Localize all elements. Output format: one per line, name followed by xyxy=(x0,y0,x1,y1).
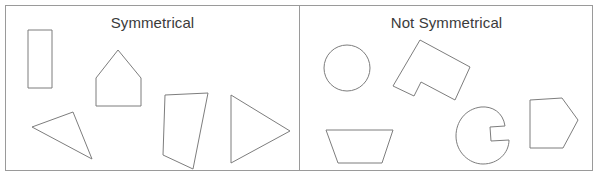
panel-title-symmetrical: Symmetrical xyxy=(5,14,300,32)
panel-title-not-symmetrical: Not Symmetrical xyxy=(300,14,593,32)
worksheet: Symmetrical Not Symmetrical xyxy=(0,0,600,178)
panel-not-symmetrical: Not Symmetrical xyxy=(300,5,593,171)
panel-symmetrical: Symmetrical xyxy=(5,5,300,171)
